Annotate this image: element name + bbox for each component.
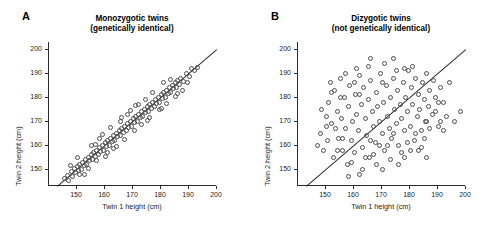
data-point bbox=[86, 166, 91, 171]
data-point bbox=[458, 109, 463, 114]
data-point bbox=[391, 131, 396, 136]
y-tick-label: 200 bbox=[269, 45, 291, 52]
data-point bbox=[380, 167, 385, 172]
data-point bbox=[161, 80, 166, 85]
x-tick-label: 150 bbox=[312, 191, 338, 198]
x-tick-label: 200 bbox=[203, 191, 229, 198]
data-point bbox=[382, 148, 387, 153]
x-tick bbox=[76, 186, 77, 189]
data-point bbox=[354, 112, 359, 117]
x-tick-label: 170 bbox=[119, 191, 145, 198]
y-tick bbox=[294, 97, 297, 98]
data-point bbox=[412, 138, 417, 143]
data-point bbox=[380, 80, 385, 85]
x-tick bbox=[353, 186, 354, 189]
data-point bbox=[402, 155, 407, 160]
panel-a: A Monozygotic twins(genetically identica… bbox=[0, 0, 249, 236]
data-point bbox=[408, 148, 413, 153]
data-point bbox=[380, 131, 385, 136]
data-point bbox=[433, 109, 438, 114]
data-point bbox=[405, 109, 410, 114]
x-tick-label: 160 bbox=[340, 191, 366, 198]
panel-b: B Dizygotic twins(not genetically identi… bbox=[249, 0, 498, 236]
data-point bbox=[408, 124, 413, 129]
data-point bbox=[363, 155, 368, 160]
data-point bbox=[363, 116, 368, 121]
y-axis-title: Twin 2 height (cm) bbox=[263, 126, 272, 186]
x-axis-title: Twin 1 height (cm) bbox=[297, 202, 465, 211]
data-point bbox=[368, 78, 373, 83]
data-point bbox=[374, 162, 379, 167]
data-point bbox=[343, 71, 348, 76]
data-point bbox=[377, 143, 382, 148]
x-axis-title: Twin 1 height (cm) bbox=[48, 202, 216, 211]
data-point bbox=[331, 155, 336, 160]
data-point bbox=[410, 64, 415, 69]
y-tick-label: 160 bbox=[20, 141, 42, 148]
data-point bbox=[103, 154, 108, 159]
panel-title-line1: Monozygotic twins bbox=[62, 14, 202, 24]
data-point bbox=[419, 145, 424, 150]
data-point bbox=[415, 114, 420, 119]
data-point bbox=[338, 95, 343, 100]
panel-title: Dizygotic twins(not genetically identica… bbox=[311, 14, 451, 34]
y-tick-label: 170 bbox=[20, 117, 42, 124]
data-point bbox=[164, 101, 169, 106]
data-point bbox=[413, 76, 418, 81]
y-tick bbox=[45, 49, 48, 50]
data-point bbox=[119, 115, 124, 120]
data-point bbox=[436, 100, 441, 105]
data-point bbox=[360, 167, 365, 172]
data-point bbox=[360, 145, 365, 150]
data-point bbox=[410, 102, 415, 107]
data-point bbox=[385, 143, 390, 148]
plot-area bbox=[297, 42, 465, 186]
data-point bbox=[419, 128, 424, 133]
data-point bbox=[374, 90, 379, 95]
x-tick-label: 170 bbox=[368, 191, 394, 198]
data-point bbox=[388, 157, 393, 162]
data-point bbox=[436, 124, 441, 129]
data-point bbox=[329, 90, 334, 95]
data-point bbox=[424, 119, 429, 124]
panel-title-line1: Dizygotic twins bbox=[311, 14, 451, 24]
y-tick bbox=[45, 169, 48, 170]
x-tick bbox=[104, 186, 105, 189]
data-point bbox=[447, 80, 452, 85]
y-tick bbox=[294, 145, 297, 146]
data-point bbox=[335, 109, 340, 114]
x-tick-label: 160 bbox=[91, 191, 117, 198]
data-point bbox=[366, 97, 371, 102]
data-point bbox=[370, 109, 375, 114]
data-point bbox=[361, 85, 366, 90]
y-tick-label: 180 bbox=[20, 93, 42, 100]
panel-title-line2: (not genetically identical) bbox=[311, 24, 451, 34]
data-point bbox=[416, 92, 421, 97]
data-point bbox=[424, 155, 429, 160]
x-tick-label: 150 bbox=[63, 191, 89, 198]
data-point bbox=[114, 144, 119, 149]
x-tick bbox=[216, 186, 217, 189]
data-point bbox=[433, 95, 438, 100]
x-tick bbox=[132, 186, 133, 189]
data-point bbox=[381, 100, 386, 105]
data-point bbox=[371, 152, 376, 157]
data-point bbox=[349, 138, 354, 143]
data-point bbox=[441, 128, 446, 133]
y-tick bbox=[45, 145, 48, 146]
data-point bbox=[324, 124, 329, 129]
data-point bbox=[195, 65, 200, 70]
y-tick bbox=[45, 73, 48, 74]
data-point bbox=[388, 95, 393, 100]
data-point bbox=[150, 90, 155, 95]
data-point bbox=[333, 126, 338, 131]
data-point bbox=[325, 138, 330, 143]
y-tick bbox=[45, 121, 48, 122]
y-tick bbox=[294, 73, 297, 74]
data-point bbox=[405, 140, 410, 145]
x-tick-label: 200 bbox=[452, 191, 478, 198]
data-point bbox=[385, 114, 390, 119]
data-point bbox=[424, 71, 429, 76]
data-point bbox=[352, 80, 357, 85]
y-tick-label: 190 bbox=[20, 69, 42, 76]
